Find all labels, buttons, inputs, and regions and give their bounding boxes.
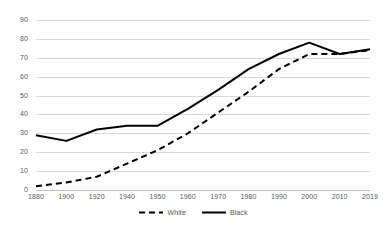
legend-label: White [167,208,185,217]
x-axis-tick-label: 1940 [119,192,135,202]
x-axis-tick-label: 2010 [332,192,348,202]
series-line-black [36,43,370,141]
x-axis-tick-label: 1900 [58,192,74,202]
y-axis-tick-label: 0 [0,186,28,194]
x-axis-tick-label: 1880 [28,192,44,202]
x-axis-tick-label: 1950 [149,192,165,202]
series-layer [36,20,370,190]
y-axis-tick-label: 30 [0,129,28,137]
x-axis-tick-label: 1990 [271,192,287,202]
y-axis-tick-label: 60 [0,73,28,81]
x-axis-tick-label: 1960 [180,192,196,202]
y-axis-tick-label: 20 [0,148,28,156]
legend-swatch-solid-icon [202,209,226,216]
legend-item-white[interactable]: White [139,208,185,217]
legend-item-black[interactable]: Black [202,208,248,217]
y-axis-tick-label: 40 [0,110,28,118]
x-axis-tick-label: 1980 [241,192,257,202]
y-axis-tick-label: 80 [0,35,28,43]
x-axis: 1880190019201940195019601970198019902000… [36,192,370,206]
chart-legend: WhiteBlack [0,208,387,217]
gridline [36,190,370,191]
y-axis-tick-label: 70 [0,54,28,62]
legend-swatch-dashed-icon [139,209,163,216]
line-chart: 0102030405060708090 18801900192019401950… [0,0,387,232]
y-axis-tick-label: 10 [0,167,28,175]
y-axis-tick-label: 50 [0,92,28,100]
y-axis-tick-label: 90 [0,16,28,24]
x-axis-tick-label: 1970 [210,192,226,202]
plot-area [36,20,370,190]
x-axis-tick-label: 2000 [301,192,317,202]
x-axis-tick-label: 1920 [89,192,105,202]
x-axis-tick-label: 2019 [362,192,378,202]
series-line-white [36,50,370,186]
y-axis: 0102030405060708090 [0,20,32,190]
legend-label: Black [230,208,248,217]
